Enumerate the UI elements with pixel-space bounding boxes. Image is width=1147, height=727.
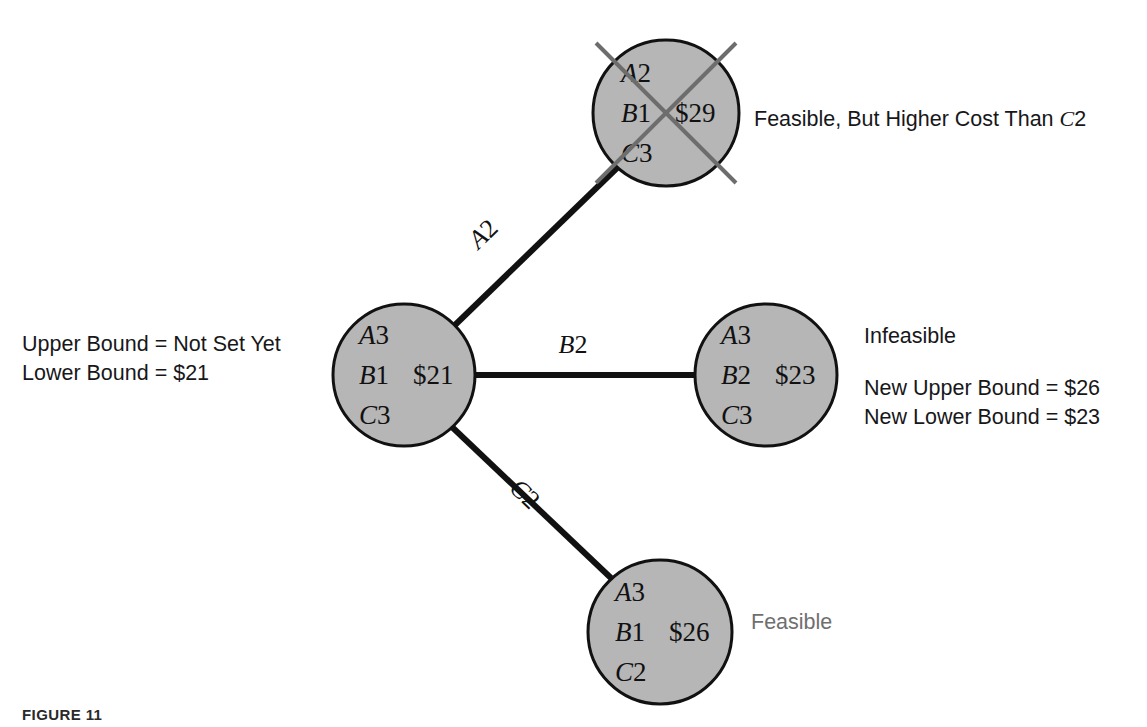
edge-a2-label: A2 (461, 213, 503, 255)
node-bottom-assignment-b: B1 (615, 617, 645, 647)
node-right-cost: $23 (775, 360, 816, 390)
annotation-top-note: Feasible, But Higher Cost Than C2 (754, 104, 1086, 134)
node-bottom-assignment-a: A3 (613, 577, 645, 607)
node-bottom-circle (588, 560, 732, 704)
node-top-assignment-b: B1 (621, 98, 651, 128)
node-bottom-assignment-c: C2 (615, 657, 647, 687)
node-center-assignment-b: B1 (359, 360, 389, 390)
annotation-top-note-var: C (1060, 106, 1075, 131)
node-center-cost: $21 (413, 360, 454, 390)
node-center-assignment-c: C3 (359, 400, 391, 430)
node-bottom-cost: $26 (669, 617, 710, 647)
branch-and-bound-diagram: A2B1C3$29A3B1C3$21A3B2C3$23A3B1C2$26 A2B… (0, 0, 1147, 727)
node-top-cost: $29 (675, 98, 716, 128)
node-center: A3B1C3$21 (333, 304, 475, 446)
annotation-top-note-val: 2 (1074, 107, 1086, 131)
annotation-new-lower-bound: New Lower Bound = $23 (864, 403, 1100, 432)
figure-caption: FIGURE 11 (22, 706, 102, 723)
node-right-assignment-c: C3 (721, 400, 753, 430)
annotation-lower-bound: Lower Bound = $21 (22, 359, 281, 388)
annotation-feasible-label: Feasible (751, 608, 832, 637)
node-right-circle (695, 304, 837, 446)
annotation-bottom-note: Feasible (751, 608, 832, 637)
annotation-upper-bound: Upper Bound = Not Set Yet (22, 330, 281, 359)
node-center-assignment-a: A3 (357, 320, 389, 350)
annotation-left-bounds: Upper Bound = Not Set Yet Lower Bound = … (22, 330, 281, 388)
node-top: A2B1C3$29 (593, 40, 739, 186)
node-right-assignment-a: A3 (719, 320, 751, 350)
annotation-right-status: Infeasible (864, 322, 956, 351)
annotation-infeasible-label: Infeasible (864, 322, 956, 351)
node-bottom: A3B1C2$26 (588, 560, 732, 704)
annotation-top-note-text: Feasible, But Higher Cost Than (754, 107, 1060, 131)
node-right: A3B2C3$23 (695, 304, 837, 446)
node-center-circle (333, 304, 475, 446)
edge-b2-label: B2 (559, 330, 588, 359)
annotation-new-upper-bound: New Upper Bound = $26 (864, 374, 1100, 403)
node-right-assignment-b: B2 (721, 360, 751, 390)
annotation-right-bounds: New Upper Bound = $26 New Lower Bound = … (864, 374, 1100, 432)
